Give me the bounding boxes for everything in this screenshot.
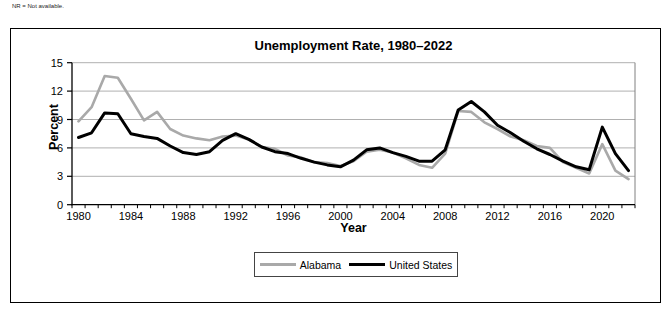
x-tick-label-1996: 1996: [276, 210, 300, 222]
x-tick-label-2016: 2016: [538, 210, 562, 222]
x-axis-label: Year: [72, 221, 635, 235]
y-tick-label-0: 0: [57, 199, 63, 211]
x-tick-label-1984: 1984: [119, 210, 143, 222]
x-tick-label-2004: 2004: [381, 210, 405, 222]
series-line-united-states: [79, 102, 629, 171]
x-tick-label-1992: 1992: [223, 210, 247, 222]
legend-item-united-states: United States: [349, 259, 452, 271]
legend-item-alabama: Alabama: [260, 259, 341, 271]
page: NR = Not available. Unemployment Rate, 1…: [0, 0, 672, 313]
united-states-line-swatch: [349, 263, 385, 266]
x-tick-label-2008: 2008: [433, 210, 457, 222]
y-tick-label-15: 15: [51, 57, 63, 69]
y-tick-label-6: 6: [57, 142, 63, 154]
x-tick-label-1988: 1988: [171, 210, 195, 222]
legend-label-united-states: United States: [389, 259, 452, 271]
alabama-line-swatch: [260, 263, 296, 266]
legend-label-alabama: Alabama: [300, 259, 341, 271]
x-tick-label-2012: 2012: [485, 210, 509, 222]
y-tick-label-9: 9: [57, 114, 63, 126]
y-tick-label-12: 12: [51, 85, 63, 97]
x-tick-label-2000: 2000: [328, 210, 352, 222]
legend: Alabama United States: [254, 252, 458, 277]
x-tick-label-2020: 2020: [590, 210, 614, 222]
x-tick-label-1980: 1980: [66, 210, 90, 222]
y-tick-label-3: 3: [57, 170, 63, 182]
